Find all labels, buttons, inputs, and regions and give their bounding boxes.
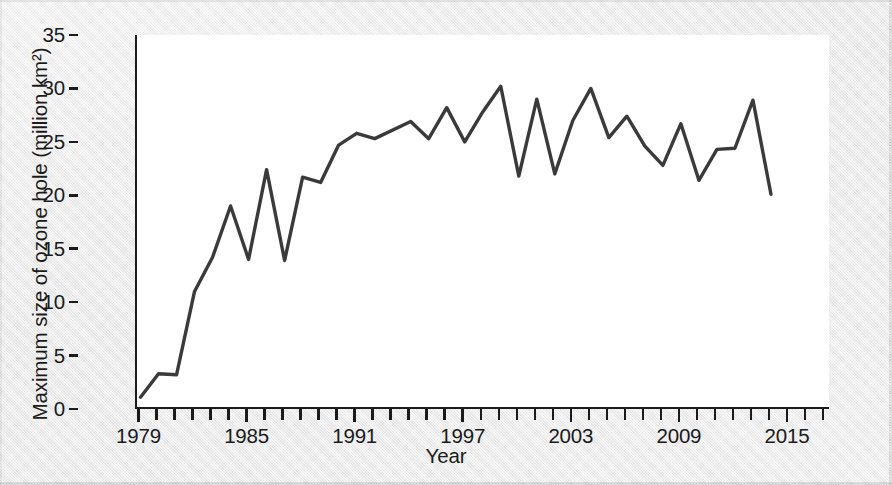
data-series-group [141, 86, 771, 397]
y-axis-tick [69, 87, 78, 90]
x-axis-tick [714, 409, 717, 420]
x-axis-tick [299, 409, 302, 420]
x-axis-tick [660, 409, 663, 420]
x-axis-tick [263, 409, 266, 420]
x-axis-tick [498, 409, 501, 420]
page-edge-left [0, 0, 2, 485]
x-axis-tick [642, 409, 645, 420]
x-axis-tick [786, 409, 789, 422]
x-axis-tick [516, 409, 519, 420]
x-axis-tick [335, 409, 338, 420]
y-axis-tick-label: 5 [54, 344, 65, 368]
x-axis-tick [804, 409, 807, 420]
x-axis-tick [534, 409, 537, 420]
plot-area [135, 35, 829, 409]
line-chart-svg [137, 35, 831, 409]
x-axis-tick [425, 409, 428, 420]
x-axis-tick [768, 409, 771, 420]
x-axis-tick [732, 409, 735, 420]
x-axis-tick [696, 409, 699, 420]
x-axis-tick [822, 409, 825, 420]
y-axis-tick [69, 34, 78, 37]
x-axis-tick [209, 409, 212, 420]
x-axis-tick [389, 409, 392, 420]
x-axis-tick [407, 409, 410, 420]
page-edge-top [0, 0, 892, 2]
x-axis-tick [480, 409, 483, 420]
x-axis-tick [155, 409, 158, 420]
x-axis-tick [461, 409, 464, 422]
x-axis-tick [173, 409, 176, 420]
x-axis-tick [750, 409, 753, 420]
y-axis-tick [69, 247, 78, 250]
y-axis-tick [69, 194, 78, 197]
x-axis-tick [281, 409, 284, 420]
x-axis-tick [588, 409, 591, 420]
y-axis-tick-group: 05101520253035 [0, 0, 135, 485]
x-axis-tick [606, 409, 609, 420]
x-axis-tick [245, 409, 248, 422]
x-axis-tick [317, 409, 320, 420]
y-axis-tick [69, 301, 78, 304]
ozone-hole-chart-figure: Maximum size of ozone hole (million km²)… [0, 0, 892, 485]
x-axis-tick [137, 409, 140, 422]
x-axis-tick [353, 409, 356, 422]
y-axis-tick [69, 141, 78, 144]
data-line-segment [141, 86, 771, 397]
x-axis-tick [624, 409, 627, 420]
x-axis-tick [191, 409, 194, 420]
x-axis-tick [443, 409, 446, 420]
x-axis-title: Year [0, 444, 892, 468]
x-axis-tick [552, 409, 555, 420]
y-axis-tick-label: 0 [54, 397, 65, 421]
x-axis-tick [371, 409, 374, 420]
x-axis-tick [570, 409, 573, 422]
y-axis-tick [69, 408, 78, 411]
y-axis-title: Maximum size of ozone hole (million km²) [28, 29, 52, 439]
y-axis-tick [69, 354, 78, 357]
x-axis-tick [227, 409, 230, 420]
x-axis-tick [678, 409, 681, 422]
